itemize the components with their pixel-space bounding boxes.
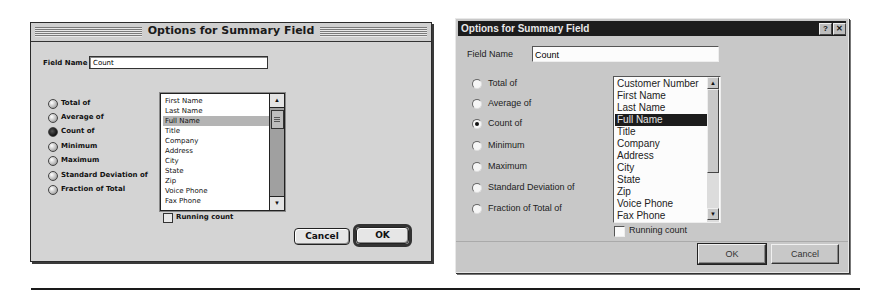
dialog-title: Options for Summary Field bbox=[461, 22, 589, 35]
radio-label: Maximum bbox=[61, 156, 99, 164]
help-button-icon[interactable]: ? bbox=[819, 23, 832, 35]
list-item[interactable]: Company bbox=[615, 138, 709, 150]
running-count-label: Running count bbox=[629, 225, 687, 235]
listbox-scrollbar[interactable]: ▲ ▼ bbox=[269, 94, 284, 210]
scroll-down-arrow-icon[interactable]: ▼ bbox=[270, 196, 284, 210]
list-item[interactable]: Fax Phone bbox=[615, 210, 709, 220]
list-item[interactable]: Last Name bbox=[615, 102, 709, 114]
radio-button-selected-icon bbox=[472, 119, 482, 129]
radio-button-icon bbox=[48, 171, 58, 181]
close-button-icon[interactable]: ✕ bbox=[833, 23, 846, 35]
list-item[interactable]: Zip bbox=[163, 176, 269, 186]
list-item[interactable]: Company bbox=[163, 136, 269, 146]
field-name-label: Field Name bbox=[43, 59, 87, 67]
scroll-thumb[interactable] bbox=[707, 89, 719, 173]
mac-title-bar[interactable]: Options for Summary Field bbox=[31, 23, 431, 42]
list-item[interactable]: State bbox=[163, 166, 269, 176]
radio-button-icon bbox=[472, 204, 482, 214]
grip-icon bbox=[274, 117, 280, 122]
ok-button[interactable]: OK bbox=[356, 227, 409, 244]
field-name-label: Field Name bbox=[467, 49, 513, 59]
cancel-button[interactable]: Cancel bbox=[294, 228, 350, 245]
radio-label: Average of bbox=[488, 98, 531, 108]
mac-summary-options-dialog: Options for Summary Field Field Name Cou… bbox=[30, 22, 432, 262]
radio-label: Total of bbox=[61, 99, 90, 107]
radio-button-icon bbox=[472, 162, 482, 172]
radio-label: Standard Deviation of bbox=[61, 171, 148, 179]
radio-label: Average of bbox=[61, 113, 104, 121]
field-name-input[interactable]: Count bbox=[89, 56, 268, 69]
dialog-title: Options for Summary Field bbox=[142, 24, 321, 37]
list-item[interactable]: Address bbox=[615, 150, 709, 162]
win-title-bar[interactable]: Options for Summary Field ? ✕ bbox=[458, 21, 846, 36]
radio-label: Minimum bbox=[61, 142, 97, 150]
checkbox-icon bbox=[163, 213, 173, 223]
scroll-thumb[interactable] bbox=[271, 110, 284, 129]
scroll-up-arrow-icon[interactable]: ▲ bbox=[707, 77, 719, 89]
fields-listbox[interactable]: Customer Number First Name Last Name Ful… bbox=[613, 76, 721, 223]
list-item[interactable]: First Name bbox=[615, 90, 709, 102]
list-item[interactable]: Fax Phone bbox=[163, 196, 269, 206]
list-item-selected[interactable]: Full Name bbox=[615, 114, 709, 126]
listbox-scrollbar[interactable]: ▲ ▼ bbox=[707, 77, 719, 222]
radio-button-icon bbox=[472, 99, 482, 109]
list-item[interactable]: Last Name bbox=[163, 106, 269, 116]
radio-button-icon bbox=[48, 99, 58, 109]
list-item[interactable]: Voice Phone bbox=[163, 186, 269, 196]
field-name-input[interactable]: Count bbox=[532, 46, 719, 62]
list-item[interactable]: Customer Number bbox=[615, 78, 709, 90]
list-item[interactable]: Title bbox=[615, 126, 709, 138]
list-item[interactable]: Voice Phone bbox=[615, 198, 709, 210]
fields-listbox[interactable]: First Name Last Name Full Name Title Com… bbox=[160, 93, 285, 211]
win-summary-options-dialog: Options for Summary Field ? ✕ Field Name… bbox=[455, 18, 849, 273]
radio-button-icon bbox=[472, 141, 482, 151]
radio-label: Fraction of Total of bbox=[488, 203, 562, 213]
radio-button-icon bbox=[48, 156, 58, 166]
horizontal-rule bbox=[31, 288, 860, 290]
list-item[interactable]: City bbox=[615, 162, 709, 174]
list-item-selected[interactable]: Full Name bbox=[163, 116, 269, 126]
radio-button-icon bbox=[48, 142, 58, 152]
list-item[interactable]: Address bbox=[163, 146, 269, 156]
ok-button[interactable]: OK bbox=[698, 244, 766, 264]
radio-label: Maximum bbox=[488, 161, 527, 171]
radio-label: Count of bbox=[61, 127, 95, 135]
list-item[interactable]: State bbox=[615, 174, 709, 186]
list-item[interactable]: Zip bbox=[615, 186, 709, 198]
radio-button-icon bbox=[48, 113, 58, 123]
radio-button-icon bbox=[472, 183, 482, 193]
radio-button-icon bbox=[472, 79, 482, 89]
radio-label: Minimum bbox=[488, 140, 525, 150]
radio-button-icon bbox=[48, 185, 58, 195]
scroll-up-arrow-icon[interactable]: ▲ bbox=[270, 94, 284, 108]
radio-label: Standard Deviation of bbox=[488, 182, 575, 192]
radio-button-selected-icon bbox=[48, 127, 58, 137]
radio-label: Total of bbox=[488, 78, 517, 88]
list-item[interactable]: Title bbox=[163, 126, 269, 136]
radio-label: Fraction of Total bbox=[61, 185, 125, 193]
cancel-button[interactable]: Cancel bbox=[771, 244, 839, 264]
divider bbox=[456, 241, 848, 242]
radio-label: Count of bbox=[488, 118, 522, 128]
list-item[interactable]: First Name bbox=[163, 96, 269, 106]
ok-default-ring: OK bbox=[353, 224, 412, 247]
running-count-label: Running count bbox=[176, 213, 233, 221]
checkbox-icon bbox=[614, 226, 625, 237]
scroll-down-arrow-icon[interactable]: ▼ bbox=[707, 208, 719, 220]
list-item[interactable]: City bbox=[163, 156, 269, 166]
